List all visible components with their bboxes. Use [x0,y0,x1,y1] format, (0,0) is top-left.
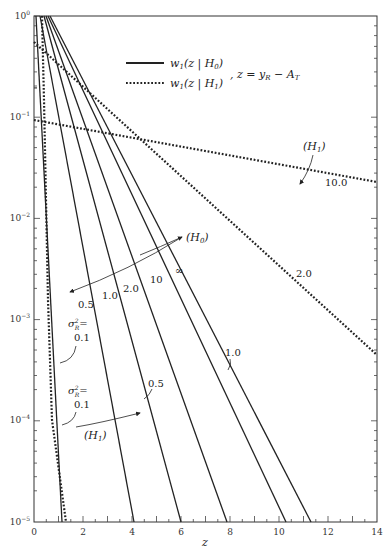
h1-curves [34,16,377,522]
x-axis-label: z [201,536,208,548]
h0-curve-1.0 [44,16,181,522]
h0-curves [36,16,311,522]
h1-annotation-label-top: (H1) [303,140,326,154]
h0-curve-0.1 [36,16,62,522]
label-h1-10.0: 10.0 [325,177,347,188]
svg-text:0.1: 0.1 [74,332,90,343]
sigma-annotation-h0: σ2R= 0.1 [60,317,90,363]
h0-curve-0.5 [40,16,134,522]
h0-annotation-label: (H0) [186,231,209,245]
x-tick-0: 0 [31,527,37,537]
plot-frame [34,16,377,522]
label-h0-0.5: 0.5 [78,299,94,310]
svg-text:0.1: 0.1 [74,399,90,410]
curve-labels: 0.5 1.0 2.0 10 ∞ 10.0 2.0 1.0 0.5 [78,177,347,389]
svg-text:σ2R=: σ2R= [68,384,88,398]
y-tick-labels: 100 10−1 10−2 10−3 10−4 10−5 [10,9,30,527]
legend: w1(z | H0) w1(z | H1) , z = yR − AT [126,57,301,91]
x-tick-6: 6 [178,527,184,537]
y-tick-1e-1: 10−1 [10,110,30,122]
sigma-h1-pointer-icon [62,412,76,425]
x-tick-labels: 0 2 4 6 8 10 12 14 z [31,527,383,548]
legend-note: , z = yR − AT [230,68,301,82]
x-tick-8: 8 [227,527,233,537]
x-tick-2: 2 [80,527,86,537]
label-h0-10: 10 [150,274,163,285]
h0-arrow-head-right-icon [140,237,182,255]
x-axis [46,516,365,522]
y-tick-1e-4: 10−4 [10,413,30,425]
log-probability-chart: 0 2 4 6 8 10 12 14 z 100 10−1 10−2 10−3 [0,0,390,548]
y-tick-1e-3: 10−3 [10,312,30,324]
svg-text:σ2R=: σ2R= [68,317,88,331]
label-h1-0.5: 0.5 [148,378,164,389]
h1-arrow-annotation-bottom: (H1) [76,359,231,443]
h1-annotation-label-bottom: (H1) [84,429,107,443]
legend-h1-label: w1(z | H1) [170,77,223,91]
sigma-annotation-h1: σ2R= 0.1 [62,384,90,425]
sigma-h0-pointer-icon [60,346,76,363]
label-h0-1.0: 1.0 [102,290,118,301]
x-tick-14: 14 [371,527,383,537]
x-tick-12: 12 [322,527,333,537]
x-tick-4: 4 [129,527,135,537]
x-tick-10: 10 [273,527,285,537]
label-h0-inf: ∞ [175,265,183,276]
y-tick-1e-2: 10−2 [10,211,30,223]
h1-right-arrow-icon [76,413,140,427]
label-h0-1.0-right: 1.0 [225,347,241,358]
y-tick-1e-5: 10−5 [10,515,30,527]
label-h1-2.0: 2.0 [296,268,312,279]
h0-curve-2.0 [46,16,227,522]
h0-curve-10 [48,16,286,522]
legend-h0-label: w1(z | H0) [170,57,223,71]
label-h0-2.0: 2.0 [123,283,139,294]
h1-arrow-annotation-top: (H1) [300,140,326,184]
y-tick-1e0: 100 [15,9,30,21]
